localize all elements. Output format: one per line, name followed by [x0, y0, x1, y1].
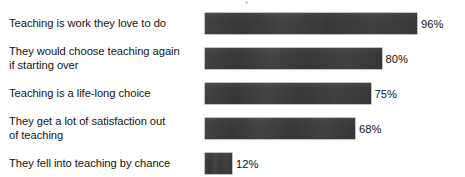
bar-track	[205, 83, 371, 104]
bar-track	[205, 48, 382, 69]
category-label: Teaching is work they love to do	[9, 6, 199, 41]
chart-plot-area: Teaching is work they love to do 96% The…	[0, 0, 465, 177]
bar-fill	[205, 48, 382, 69]
bar-value-label: 12%	[236, 153, 258, 174]
bar-fill	[205, 83, 371, 104]
category-label: They fell into teaching by chance	[9, 146, 199, 177]
chart-row: They get a lot of satisfaction out of te…	[0, 111, 465, 146]
chart-row: Teaching is a life-long choice 75%	[0, 76, 465, 111]
bar-track	[205, 153, 232, 174]
category-label: They get a lot of satisfaction out of te…	[9, 111, 199, 146]
bar-value-label: 68%	[359, 118, 381, 139]
bar-value-label: 75%	[375, 83, 397, 104]
bar-fill	[205, 13, 417, 34]
category-label: They would choose teaching again if star…	[9, 41, 199, 76]
chart-row: They would choose teaching again if star…	[0, 41, 465, 76]
bar-fill	[205, 153, 232, 174]
bar-track	[205, 13, 417, 34]
bar-track	[205, 118, 355, 139]
bar-chart-figure: Teaching is work they love to do 96% The…	[0, 0, 465, 177]
chart-row: They fell into teaching by chance 12%	[0, 146, 465, 177]
chart-row: Teaching is work they love to do 96%	[0, 6, 465, 41]
bar-fill	[205, 118, 355, 139]
bar-value-label: 80%	[386, 48, 408, 69]
bar-value-label: 96%	[421, 13, 443, 34]
category-label: Teaching is a life-long choice	[9, 76, 199, 111]
